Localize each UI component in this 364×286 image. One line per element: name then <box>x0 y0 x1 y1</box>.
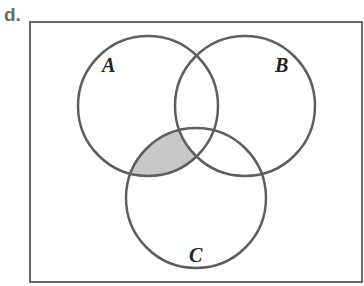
label-c: C <box>189 244 203 266</box>
label-a: A <box>100 54 115 76</box>
venn-diagram: A B C <box>0 0 364 286</box>
circle-b <box>175 36 315 176</box>
label-b: B <box>274 54 288 76</box>
